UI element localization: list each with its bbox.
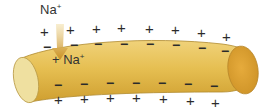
charge-inside-top: − bbox=[146, 37, 154, 51]
charge-inside-top: − bbox=[94, 37, 102, 51]
charge-inside-top: − bbox=[221, 44, 229, 58]
charge-outside-top: + bbox=[117, 20, 126, 35]
charge-outside-bottom: + bbox=[54, 92, 63, 107]
charge-inside-bottom: − bbox=[158, 76, 166, 90]
charge-inside-top: − bbox=[43, 40, 51, 54]
axon-diagram: Na+ + Na+ + + + + + + + + − − − − − − − … bbox=[0, 0, 270, 109]
charge-inside-top: − bbox=[120, 37, 128, 51]
charge-outside-bottom: + bbox=[106, 90, 115, 105]
charge-outside-top: + bbox=[222, 29, 231, 44]
charge-outside-top: + bbox=[92, 21, 101, 36]
charge-outside-bottom: + bbox=[186, 93, 195, 108]
charge-inside-bottom: − bbox=[210, 79, 218, 93]
charge-outside-bottom: + bbox=[159, 91, 168, 106]
charge-inside-top: − bbox=[172, 38, 180, 52]
charge-inside-bottom: − bbox=[106, 76, 114, 90]
charge-inside-bottom: − bbox=[80, 77, 88, 91]
charge-outside-top: + bbox=[66, 22, 75, 37]
charge-inside-top: − bbox=[198, 41, 206, 55]
charge-outside-top: + bbox=[171, 22, 180, 37]
charge-inside-bottom: − bbox=[132, 76, 140, 90]
charge-inside-top: − bbox=[70, 38, 78, 52]
charge-outside-bottom: + bbox=[211, 95, 220, 109]
ion-label-inside: + Na+ bbox=[52, 53, 85, 66]
charge-outside-top: + bbox=[145, 21, 154, 36]
charge-inside-bottom: − bbox=[54, 78, 62, 92]
charge-outside-bottom: + bbox=[132, 90, 141, 105]
charge-outside-bottom: + bbox=[80, 91, 89, 106]
charge-outside-top: + bbox=[197, 25, 206, 40]
charge-outside-top: + bbox=[40, 24, 49, 39]
ion-label-outside: Na+ bbox=[40, 3, 61, 16]
charge-inside-bottom: − bbox=[184, 77, 192, 91]
